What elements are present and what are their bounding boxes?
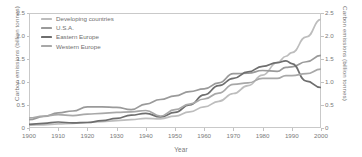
x-tick-label: 2000	[308, 132, 334, 139]
y-tick-mark-right	[321, 59, 324, 60]
y-tick-label-left: 0	[7, 124, 25, 131]
x-tick-mark	[58, 128, 59, 131]
legend-item-label: Western Europe	[56, 42, 101, 51]
x-tick-mark	[233, 128, 234, 131]
x-tick-mark	[292, 128, 293, 131]
y-tick-mark-right	[321, 82, 324, 83]
carbon-emissions-line-chart: Carbon emissions (billion tonnes) Carbon…	[0, 0, 362, 157]
y-tick-label-left: 0.5	[7, 101, 25, 108]
x-tick-mark	[87, 128, 88, 131]
x-tick-label: 1950	[162, 132, 188, 139]
legend-item[interactable]: Eastern Europe	[41, 32, 114, 41]
x-tick-mark	[321, 128, 322, 131]
y-axis-label-right: Carbon emissions (billion tonnes)	[342, 4, 349, 104]
legend-item[interactable]: U.S.A.	[41, 23, 114, 32]
x-tick-label: 1990	[279, 132, 305, 139]
legend-item[interactable]: Developing countries	[41, 14, 114, 23]
x-tick-mark	[29, 128, 30, 131]
y-tick-label-right: 2.5	[325, 9, 343, 16]
legend-color-swatch-icon	[41, 18, 52, 20]
y-tick-label-right: 1.5	[325, 55, 343, 62]
x-tick-mark	[146, 128, 147, 131]
x-tick-label: 1980	[250, 132, 276, 139]
legend-color-swatch-icon	[41, 45, 52, 47]
y-tick-label-right: 0.5	[325, 101, 343, 108]
y-tick-label-left: 1.0	[7, 78, 25, 85]
x-tick-label: 1900	[16, 132, 42, 139]
x-tick-label: 1960	[191, 132, 217, 139]
x-tick-mark	[175, 128, 176, 131]
y-tick-label-right: 1.0	[325, 78, 343, 85]
legend-item-label: Developing countries	[56, 14, 114, 23]
x-axis-label: Year	[0, 146, 362, 153]
x-tick-label: 1940	[133, 132, 159, 139]
legend-item-label: U.S.A.	[56, 23, 74, 32]
y-tick-label-right: 0	[325, 124, 343, 131]
y-tick-label-left: 2.0	[7, 32, 25, 39]
x-tick-label: 1930	[104, 132, 130, 139]
y-tick-label-right: 2.0	[325, 32, 343, 39]
x-tick-label: 1910	[45, 132, 71, 139]
y-tick-label-left: 2.5	[7, 9, 25, 16]
y-tick-mark-right	[321, 13, 324, 14]
x-tick-mark	[117, 128, 118, 131]
y-tick-label-left: 1.5	[7, 55, 25, 62]
legend-item-label: Eastern Europe	[56, 32, 99, 41]
legend-item[interactable]: Western Europe	[41, 42, 114, 51]
y-tick-mark-right	[321, 105, 324, 106]
x-tick-mark	[263, 128, 264, 131]
y-tick-mark-right	[321, 36, 324, 37]
y-axis-label-left: Carbon emissions (billion tonnes)	[13, 4, 20, 104]
legend: Developing countriesU.S.A.Eastern Europe…	[41, 14, 114, 51]
legend-color-swatch-icon	[41, 36, 52, 38]
legend-color-swatch-icon	[41, 27, 52, 29]
x-tick-label: 1920	[74, 132, 100, 139]
x-tick-label: 1970	[220, 132, 246, 139]
x-tick-mark	[204, 128, 205, 131]
